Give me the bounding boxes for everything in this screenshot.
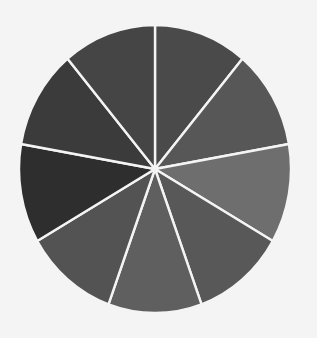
pie-slices: [19, 25, 291, 313]
pie-chart-svg: [0, 0, 317, 338]
pie-chart: [0, 0, 317, 338]
